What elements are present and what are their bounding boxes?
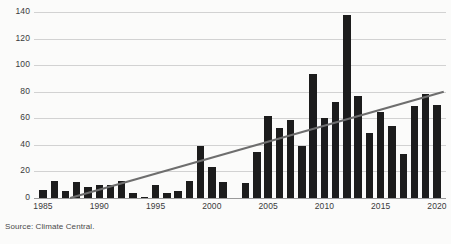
y-axis-tick-label: 100: [0, 59, 30, 69]
x-axis-tick-label: 2000: [202, 201, 221, 211]
axis-baseline: [34, 198, 446, 199]
y-axis-tick-label: 60: [0, 112, 30, 122]
source-note: Source: Climate Central.: [5, 222, 95, 231]
x-axis-tick-label: 2015: [371, 201, 390, 211]
x-axis-tick-label: 1995: [146, 201, 165, 211]
y-axis-tick-label: 0: [0, 192, 30, 202]
x-axis-tick-label: 2010: [315, 201, 334, 211]
y-axis-tick-label: 140: [0, 6, 30, 16]
x-axis-tick-label: 2020: [427, 201, 446, 211]
trend-line-segment: [70, 92, 444, 198]
y-axis-tick-label: 40: [0, 139, 30, 149]
x-axis-tick-label: 1990: [90, 201, 109, 211]
y-axis-tick-label: 120: [0, 33, 30, 43]
x-axis-tick-label: 1985: [33, 201, 52, 211]
chart-container: 020406080100120140 198519901995200020052…: [0, 0, 451, 244]
y-axis-tick-label: 20: [0, 165, 30, 175]
plot-area: [34, 12, 446, 198]
y-axis-tick-label: 80: [0, 86, 30, 96]
trend-line: [34, 12, 446, 198]
x-axis-tick-label: 2005: [258, 201, 277, 211]
